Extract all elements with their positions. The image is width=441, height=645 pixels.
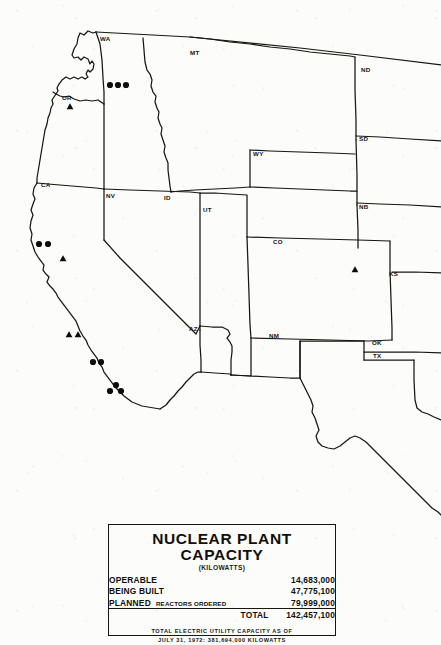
row-note-reactors-ordered: REACTORS ORDERED [156, 600, 226, 607]
nv-ca-diagonal [104, 240, 200, 334]
state-label-or: OR [62, 94, 72, 101]
co-ut-border [247, 237, 251, 338]
plant-marker-triangle [66, 331, 73, 337]
state-label-ca: CA [41, 181, 51, 188]
table-row-total: TOTAL 142,457,100 [109, 609, 335, 621]
capacity-table: OPERABLE 14,683,000 BEING BUILT 47,775,1… [109, 575, 335, 621]
row-label-text: OPERABLE [109, 575, 157, 585]
mt-north-edge [190, 37, 355, 57]
plant-marker-circle [118, 388, 124, 394]
wy-mt-upper [250, 150, 355, 154]
state-label-nd: ND [361, 66, 371, 73]
row-label-being-built: BEING BUILT [109, 586, 269, 597]
panel-footnote: TOTAL ELECTRIC UTILITY CAPACITY AS OF JU… [109, 627, 335, 644]
plant-marker-triangle [352, 266, 359, 272]
plant-marker-circle [123, 82, 129, 88]
row-label-text: PLANNED [109, 598, 151, 608]
row-value-operable: 14,683,000 [269, 575, 335, 586]
plant-marker-triangle [60, 255, 67, 261]
row-value-being-built: 47,775,100 [269, 586, 335, 597]
plant-marker-circle [107, 388, 113, 394]
state-label-az: AZ [189, 325, 198, 332]
ut-wy-co [200, 193, 247, 237]
plant-marker-circle [113, 382, 119, 388]
state-label-id: ID [164, 194, 171, 201]
state-label-tx: TX [373, 352, 382, 359]
wa-id-border [96, 32, 104, 104]
state-label-nv: NV [106, 192, 116, 199]
ks-mo-border [392, 272, 441, 273]
co-ks-border [390, 241, 392, 340]
panel-title: NUCLEAR PLANT CAPACITY [109, 531, 335, 563]
texas-rio-grande [300, 378, 441, 515]
california-coast [30, 183, 160, 409]
state-label-mt: MT [190, 49, 200, 56]
plant-marker-circle [36, 241, 42, 247]
az-utah-line [200, 330, 201, 372]
row-label-planned: PLANNEDREACTORS ORDERED [109, 597, 269, 609]
panel-units-label: (KILOWATTS) [109, 564, 335, 571]
row-label-text: BEING BUILT [109, 586, 164, 596]
tx-east-border [414, 360, 441, 420]
row-label-operable: OPERABLE [109, 575, 269, 586]
az-nm-border [200, 326, 232, 375]
az-nm-top [231, 338, 251, 376]
oregon-coast [37, 94, 56, 183]
row-value-planned: 79,999,000 [269, 597, 335, 609]
table-row: PLANNEDREACTORS ORDERED 79,999,000 [109, 597, 335, 609]
sd-wy-border [356, 140, 357, 205]
state-label-nb: NB [359, 203, 369, 210]
table-row: BEING BUILT 47,775,100 [109, 586, 335, 597]
plant-marker-circle [90, 359, 96, 365]
plant-marker-circle [98, 359, 104, 365]
nm-mexico-upper [231, 375, 300, 378]
row-value-total: 142,457,100 [269, 609, 335, 621]
plant-marker-circle [115, 82, 121, 88]
footnote-line-2: JULY 31, 1972: 381,694,000 KILOWATTS [109, 636, 335, 645]
washington-coast [53, 31, 96, 94]
plant-marker-group [36, 82, 359, 394]
ca-az-border [160, 372, 201, 409]
sd-nb-border [357, 203, 441, 207]
state-label-wy: WY [253, 150, 264, 157]
state-label-wa: WA [100, 35, 111, 42]
footnote-line-1: TOTAL ELECTRIC UTILITY CAPACITY AS OF [109, 627, 335, 636]
state-label-ks: KS [389, 270, 398, 277]
state-label-nm: NM [269, 332, 279, 339]
mt-nd-border [355, 57, 356, 140]
row-label-total: TOTAL [109, 609, 269, 621]
state-label-group: WA MT ND OR SD WY CA NV ID NB UT CO KS A… [41, 35, 398, 359]
table-row: OPERABLE 14,683,000 [109, 575, 335, 586]
state-label-ok: OK [372, 339, 382, 346]
co-nb-top [247, 237, 390, 241]
nuclear-plant-capacity-panel: NUCLEAR PLANT CAPACITY (KILOWATTS) OPERA… [108, 524, 336, 636]
plant-marker-triangle [67, 103, 74, 109]
nb-ks-border [357, 205, 358, 248]
nd-sd-border [356, 136, 441, 141]
northern-border [96, 32, 441, 65]
id-mt-border [143, 38, 171, 192]
state-label-ut: UT [203, 206, 212, 213]
state-label-sd: SD [359, 135, 368, 142]
az-mexico-border [201, 372, 231, 375]
wy-sd-border [250, 187, 357, 191]
plant-marker-circle [45, 241, 51, 247]
plant-marker-circle [107, 82, 113, 88]
state-label-co: CO [273, 238, 283, 245]
